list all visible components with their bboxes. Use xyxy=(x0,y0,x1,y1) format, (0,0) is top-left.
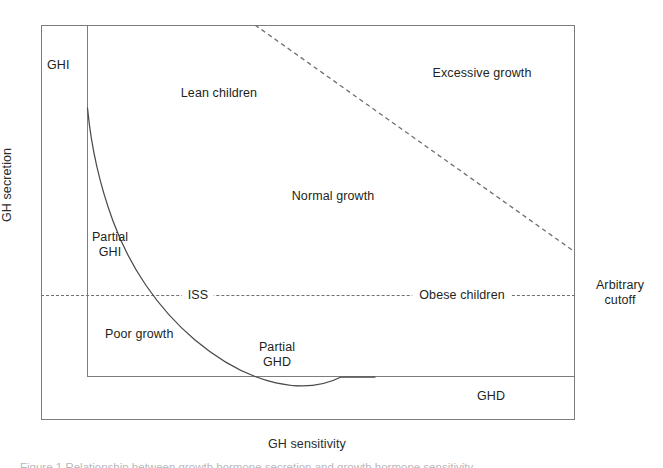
label-arbitrary-cutoff-line1: Arbitrary xyxy=(596,278,644,293)
label-partial-ghi: Partial GHI xyxy=(92,230,128,260)
label-arbitrary-cutoff-line2: cutoff xyxy=(596,293,644,308)
plot-area xyxy=(41,25,575,420)
y-axis-title: GH secretion xyxy=(0,148,14,222)
label-excessive-growth: Excessive growth xyxy=(433,66,532,81)
label-poor-growth: Poor growth xyxy=(105,327,174,342)
label-ghi: GHI xyxy=(47,58,70,73)
label-partial-ghd-line2: GHD xyxy=(259,355,295,370)
label-partial-ghd-line1: Partial xyxy=(259,340,295,355)
label-arbitrary-cutoff: Arbitrary cutoff xyxy=(596,278,644,308)
label-ghd: GHD xyxy=(477,389,505,404)
label-partial-ghd: Partial GHD xyxy=(259,340,295,370)
label-partial-ghi-line1: Partial xyxy=(92,230,128,245)
x-axis-title: GH sensitivity xyxy=(268,437,346,451)
caption-text: Figure 1 Relationship between growth hor… xyxy=(20,461,645,468)
label-lean-children: Lean children xyxy=(181,86,257,101)
label-normal-growth: Normal growth xyxy=(292,189,375,204)
label-partial-ghi-line2: GHI xyxy=(92,245,128,260)
label-iss: ISS xyxy=(182,288,214,303)
figure-container: GH secretion GHI Lean children Excessive… xyxy=(0,0,663,468)
label-obese-children: Obese children xyxy=(412,288,511,303)
